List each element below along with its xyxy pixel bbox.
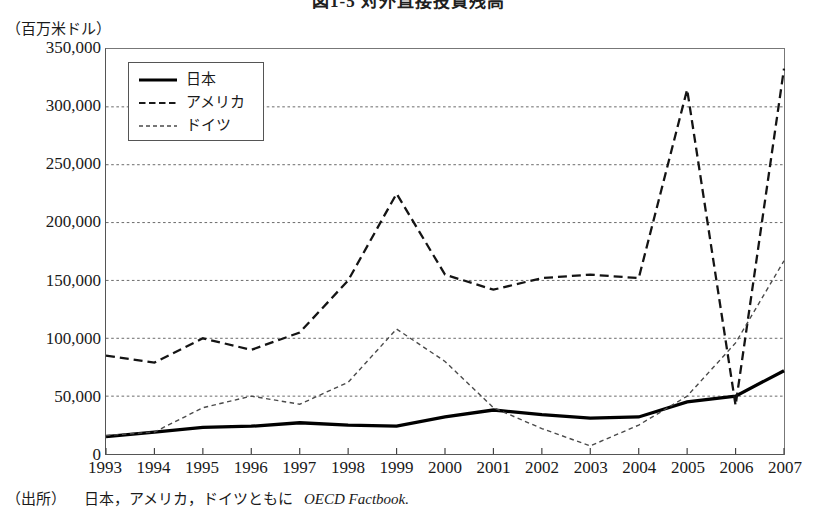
y-tick-label: 150,000 <box>5 272 101 289</box>
y-tick-label: 300,000 <box>5 97 101 114</box>
x-tick-label: 1993 <box>88 458 122 478</box>
x-tick-label: 1999 <box>379 458 413 478</box>
source-body: 日本，アメリカ，ドイツともに <box>84 491 293 507</box>
y-tick-label: 250,000 <box>5 155 101 172</box>
figure-title: 図1-5 対外直接投資残高 <box>0 0 817 12</box>
x-tick-label: 1994 <box>137 458 171 478</box>
y-axis-tick-labels: 050,000100,000150,000200,000250,000300,0… <box>0 48 101 455</box>
x-tick-label: 2002 <box>525 458 559 478</box>
y-axis-unit-label: （百万米ドル） <box>6 17 111 38</box>
legend-item-america: アメリカ <box>129 91 263 114</box>
figure-root: 図1-5 対外直接投資残高 （百万米ドル） 050,000100,000150,… <box>0 0 817 512</box>
x-tick-label: 2004 <box>622 458 656 478</box>
y-tick-label: 350,000 <box>5 39 101 56</box>
legend-label-america: アメリカ <box>186 95 245 110</box>
y-tick-label: 200,000 <box>5 213 101 230</box>
legend-key-solid-icon <box>138 74 178 86</box>
x-axis-tick-labels: 1993199419951996199719981999200020012002… <box>105 458 785 482</box>
y-tick-label: 0 <box>5 446 101 463</box>
source-reference: OECD Factbook. <box>304 491 409 507</box>
x-tick-label: 2005 <box>671 458 705 478</box>
x-tick-label: 2003 <box>574 458 608 478</box>
legend-label-japan: 日本 <box>186 72 216 87</box>
y-tick-label: 50,000 <box>5 388 101 405</box>
x-tick-label: 1998 <box>331 458 365 478</box>
x-tick-label: 1995 <box>185 458 219 478</box>
source-note: （出所） 日本，アメリカ，ドイツともに OECD Factbook. <box>6 487 409 508</box>
x-tick-label: 2001 <box>477 458 511 478</box>
x-tick-label: 1996 <box>234 458 268 478</box>
source-prefix: （出所） <box>6 491 66 507</box>
legend-item-germany: ドイツ <box>129 114 263 137</box>
x-tick-label: 2006 <box>719 458 753 478</box>
legend: 日本 アメリカ ドイツ <box>128 62 264 141</box>
x-tick-label: 1997 <box>282 458 316 478</box>
x-tick-label: 2007 <box>768 458 802 478</box>
legend-key-dotted-icon <box>138 120 178 132</box>
x-tick-label: 2000 <box>428 458 462 478</box>
legend-item-japan: 日本 <box>129 68 263 91</box>
legend-key-dashed-icon <box>138 97 178 109</box>
y-tick-label: 100,000 <box>5 330 101 347</box>
legend-label-germany: ドイツ <box>186 118 231 133</box>
